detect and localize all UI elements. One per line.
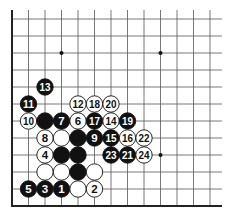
- white-stone: [86, 164, 102, 180]
- white-stone-20: 20: [103, 96, 119, 112]
- black-stone-13: 13: [37, 79, 53, 95]
- white-stone-24: 24: [136, 147, 152, 163]
- white-stone-18: 18: [86, 96, 102, 112]
- stone-move-number: 7: [58, 115, 64, 127]
- stone-move-number: 2: [91, 183, 97, 195]
- star-point: [159, 51, 163, 55]
- stones: 131218201110761714198915162242321245312: [20, 79, 152, 197]
- stone-move-number: 5: [25, 183, 32, 195]
- black-stone-21: 21: [119, 147, 135, 163]
- black-stone-7: 7: [53, 113, 69, 129]
- stone-move-number: 14: [106, 116, 117, 127]
- black-stone: [70, 164, 86, 180]
- black-stone-1: 1: [53, 181, 69, 197]
- stone-move-number: 20: [106, 99, 117, 110]
- stone-move-number: 21: [122, 150, 133, 161]
- stone-move-number: 6: [75, 115, 81, 127]
- star-point: [60, 51, 64, 55]
- stone-move-number: 18: [89, 99, 100, 110]
- black-stone-11: 11: [20, 96, 36, 112]
- black-stone-5: 5: [20, 181, 36, 197]
- stone-move-number: 22: [139, 133, 150, 144]
- stone-move-number: 15: [106, 133, 117, 144]
- white-stone: [37, 164, 53, 180]
- stone-move-number: 12: [73, 99, 84, 110]
- white-stone-6: 6: [70, 113, 86, 129]
- stone-move-number: 9: [91, 132, 97, 144]
- black-stone: [70, 147, 86, 163]
- white-stone-16: 16: [119, 130, 135, 146]
- black-stone-15: 15: [103, 130, 119, 146]
- black-stone-19: 19: [119, 113, 135, 129]
- star-point: [159, 153, 163, 157]
- white-stone-2: 2: [86, 181, 102, 197]
- white-stone: [53, 164, 69, 180]
- white-stone: [70, 181, 86, 197]
- white-stone-4: 4: [37, 147, 53, 163]
- black-stone-17: 17: [86, 113, 102, 129]
- black-stone: [53, 147, 69, 163]
- stone-move-number: 24: [139, 150, 150, 161]
- black-stone: [37, 113, 53, 129]
- white-stone-8: 8: [37, 130, 53, 146]
- white-stone-22: 22: [136, 130, 152, 146]
- stone-move-number: 13: [40, 82, 51, 93]
- stone-move-number: 19: [122, 116, 133, 127]
- stone-move-number: 8: [42, 132, 49, 144]
- stone-move-number: 1: [58, 183, 65, 195]
- white-stone-14: 14: [103, 113, 119, 129]
- stone-move-number: 10: [23, 116, 34, 127]
- black-stone-23: 23: [103, 147, 119, 163]
- stone-move-number: 11: [23, 99, 34, 110]
- black-stone: [70, 130, 86, 146]
- stone-move-number: 23: [106, 150, 117, 161]
- stone-move-number: 16: [122, 133, 133, 144]
- go-board: 131218201110761714198915162242321245312: [0, 0, 233, 220]
- white-stone-10: 10: [20, 113, 36, 129]
- black-stone-3: 3: [37, 181, 53, 197]
- white-stone-12: 12: [70, 96, 86, 112]
- stone-move-number: 4: [42, 149, 49, 161]
- black-stone-9: 9: [86, 130, 102, 146]
- stone-move-number: 3: [42, 183, 48, 195]
- stone-move-number: 17: [89, 116, 100, 127]
- white-stone: [53, 130, 69, 146]
